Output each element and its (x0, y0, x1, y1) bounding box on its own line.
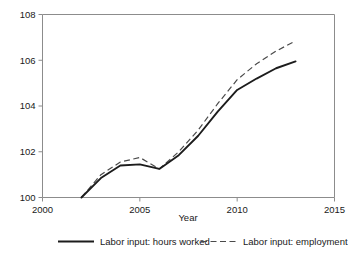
x-tick-label: 2010 (227, 204, 248, 215)
chart-legend: Labor input: hours worked Labor input: e… (58, 236, 348, 247)
y-tick-label: 108 (20, 9, 36, 20)
y-axis-ticks: 100102104106108 (20, 9, 43, 203)
line-chart: 100102104106108 2000200520102015 Year La… (0, 0, 359, 256)
chart-container: 100102104106108 2000200520102015 Year La… (0, 0, 359, 256)
y-tick-label: 102 (20, 146, 36, 157)
series-line-employment (81, 41, 295, 198)
series-line-hours-worked (81, 61, 295, 197)
y-tick-label: 104 (20, 100, 36, 111)
x-tick-label: 2015 (324, 204, 345, 215)
data-series-group (81, 41, 295, 198)
y-tick-label: 100 (20, 192, 36, 203)
x-tick-label: 2000 (32, 204, 53, 215)
x-axis-title: Year (178, 212, 197, 223)
legend-label-employment: Labor input: employment (243, 236, 348, 247)
y-tick-label: 106 (20, 55, 36, 66)
legend-label-hours-worked: Labor input: hours worked (100, 236, 210, 247)
plot-frame (43, 15, 335, 198)
x-tick-label: 2005 (129, 204, 150, 215)
